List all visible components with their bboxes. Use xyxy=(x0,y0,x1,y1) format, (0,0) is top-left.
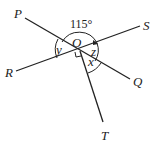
label-Q: Q xyxy=(133,74,143,89)
label-R: R xyxy=(4,65,13,80)
label-S: S xyxy=(143,18,150,33)
label-P: P xyxy=(13,6,22,21)
label-T: T xyxy=(101,128,109,143)
angle-label-x: x xyxy=(87,54,94,69)
geometry-diagram: P S R Q T O 115° y z x xyxy=(0,0,155,143)
label-O: O xyxy=(72,35,82,50)
angle-label-115: 115° xyxy=(70,17,93,31)
angle-label-y: y xyxy=(54,42,62,57)
